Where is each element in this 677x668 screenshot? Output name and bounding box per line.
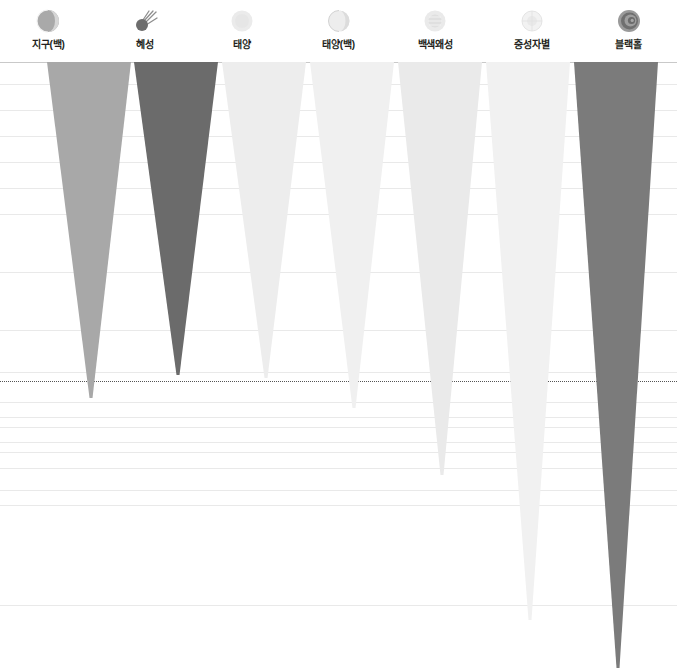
comet-icon — [132, 8, 158, 34]
legend-label: 중성자별 — [514, 40, 549, 50]
funnel-series — [0, 62, 677, 668]
legend-item-sun[interactable]: 태양 — [193, 0, 290, 50]
legend-item-neutron-star[interactable]: 중성자별 — [484, 0, 581, 50]
legend-label: 지구(백) — [32, 40, 65, 50]
funnel-bar[interactable] — [310, 62, 394, 408]
legend-label: 백색왜성 — [418, 40, 453, 50]
legend-item-earth[interactable]: 지구(백) — [0, 0, 97, 50]
funnel-bar[interactable] — [222, 62, 306, 378]
chart-plot-area — [0, 62, 677, 668]
black-hole-icon — [616, 8, 642, 34]
neutron-star-icon — [519, 8, 545, 34]
funnel-bar[interactable] — [574, 62, 658, 668]
white-dwarf-icon — [422, 8, 448, 34]
funnel-bar[interactable] — [486, 62, 570, 620]
legend-item-black-hole[interactable]: 블랙홀 — [580, 0, 677, 50]
legend: 지구(백) 혜성 태양 — [0, 0, 677, 62]
legend-item-white-dwarf[interactable]: 백색왜성 — [387, 0, 484, 50]
sun-icon — [229, 8, 255, 34]
funnel-bar[interactable] — [398, 62, 482, 475]
legend-label: 혜성 — [136, 40, 154, 50]
funnel-bar[interactable] — [134, 62, 218, 375]
legend-item-comet[interactable]: 혜성 — [97, 0, 194, 50]
legend-item-sun-white[interactable]: 태양(백) — [290, 0, 387, 50]
funnel-bar[interactable] — [47, 62, 131, 398]
sun-white-icon — [326, 8, 352, 34]
legend-label: 태양 — [233, 40, 251, 50]
legend-label: 태양(백) — [322, 40, 355, 50]
legend-label: 블랙홀 — [615, 40, 641, 50]
earth-icon — [35, 8, 61, 34]
